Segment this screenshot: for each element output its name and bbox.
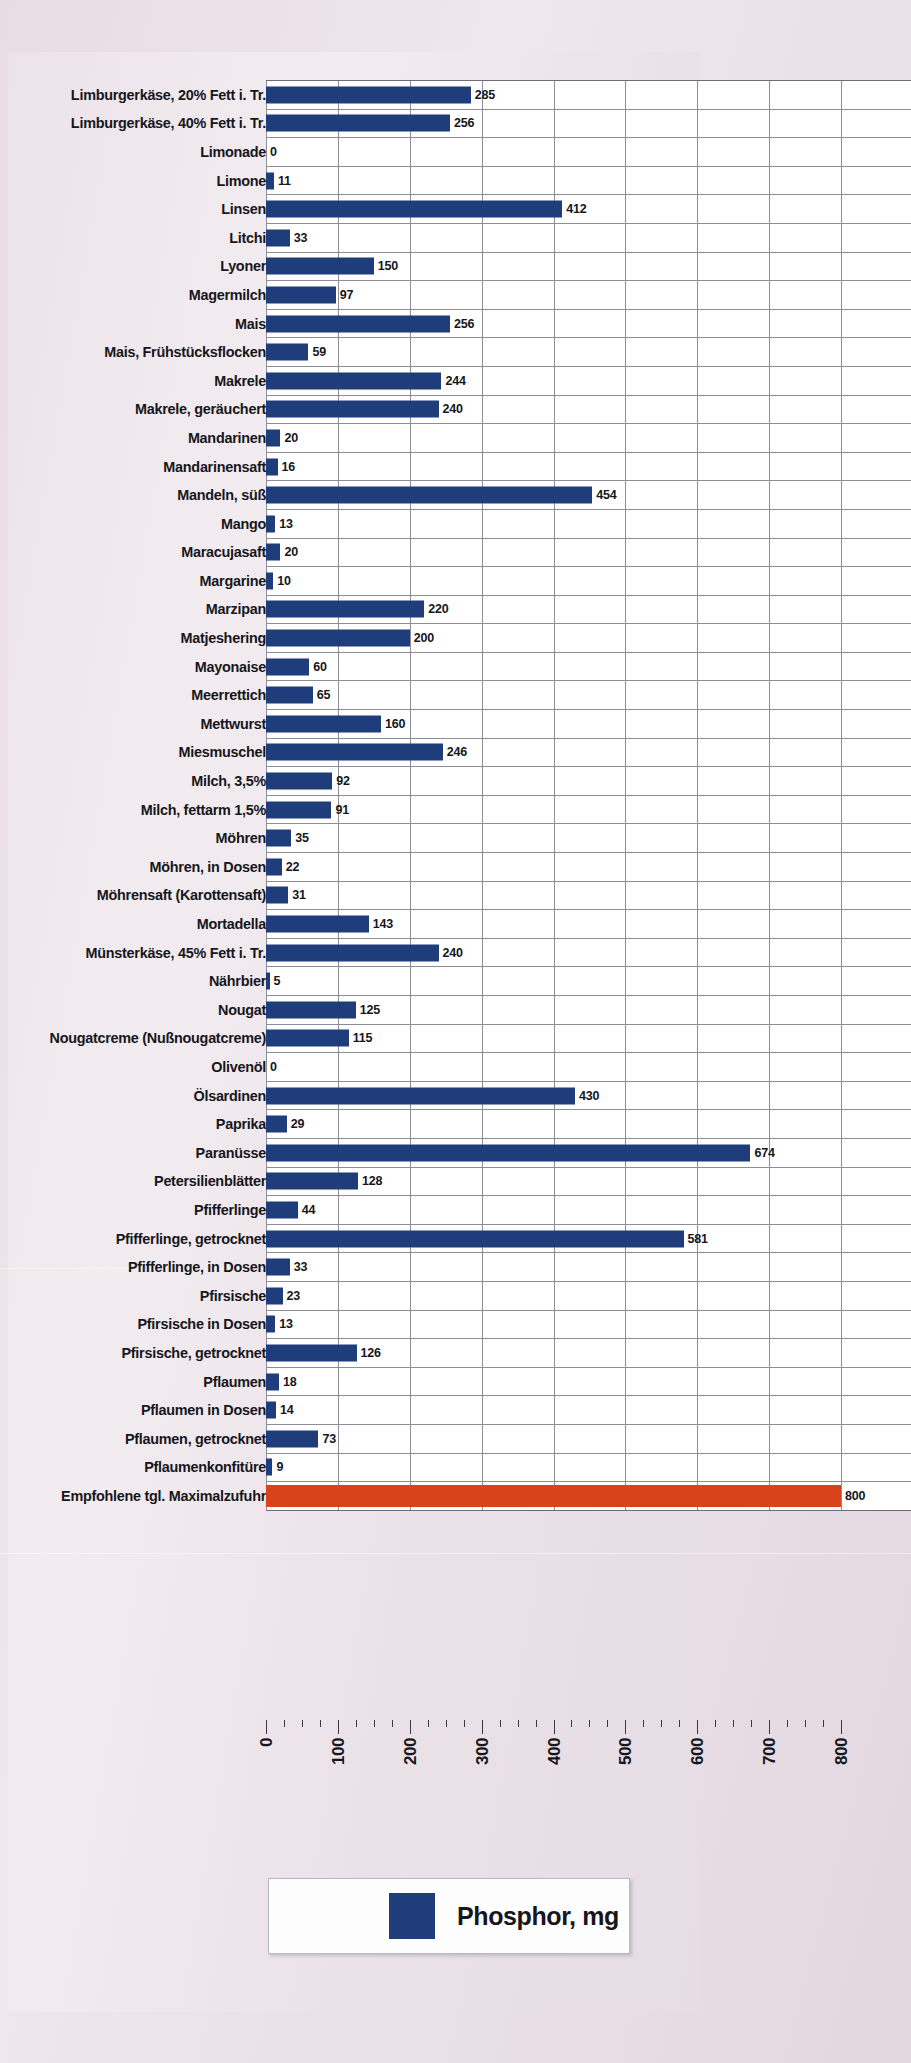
bar-value-label: 143 xyxy=(369,917,393,931)
value-bar xyxy=(266,773,332,790)
plot-cell: 454 xyxy=(266,481,911,510)
bar-value-label: 240 xyxy=(439,402,463,416)
minor-tick xyxy=(356,1720,357,1727)
category-label: Limburgerkäse, 20% Fett i. Tr. xyxy=(19,81,266,110)
plot-cell: 65 xyxy=(266,681,911,710)
plot-cell: 97 xyxy=(266,281,911,310)
plot-cell: 115 xyxy=(266,1024,911,1053)
major-tick xyxy=(697,1720,698,1734)
bar-value-label: 60 xyxy=(309,660,327,674)
bar-value-label: 0 xyxy=(266,145,277,159)
category-label: Möhren xyxy=(19,824,266,853)
category-label: Nougat xyxy=(19,996,266,1025)
value-bar xyxy=(266,601,424,618)
chart-row: Pfirsische23 xyxy=(0,1281,911,1310)
value-bar xyxy=(266,1344,357,1361)
minor-tick xyxy=(607,1720,608,1727)
value-bar xyxy=(266,1087,575,1104)
chart-row: Pflaumen18 xyxy=(0,1367,911,1396)
chart-row: Mango13 xyxy=(0,509,911,538)
category-label: Miesmuschel xyxy=(19,738,266,767)
category-label: Litchi xyxy=(19,223,266,252)
plot-cell: 160 xyxy=(266,710,911,739)
gridlines xyxy=(266,1253,911,1281)
bar-value-label: 23 xyxy=(283,1289,301,1303)
category-label: Empfohlene tgl. Maximalzufuhr xyxy=(19,1482,266,1511)
bar-value-label: 59 xyxy=(308,345,326,359)
minor-tick xyxy=(320,1720,321,1727)
value-bar xyxy=(266,830,291,847)
chart-row: Lyoner150 xyxy=(0,252,911,281)
category-label: Pfirsische xyxy=(19,1281,266,1310)
bar-value-label: 246 xyxy=(443,745,467,759)
gridlines xyxy=(266,653,911,681)
category-label: Möhrensaft (Karottensaft) xyxy=(19,881,266,910)
chart-row: Nährbier5 xyxy=(0,967,911,996)
plot-cell: 143 xyxy=(266,910,911,939)
value-bar xyxy=(266,401,439,418)
category-label: Paprika xyxy=(19,1110,266,1139)
chart-row: Mettwurst160 xyxy=(0,710,911,739)
gridlines xyxy=(266,767,911,795)
x-tick-label: 400 xyxy=(545,1738,565,1765)
x-tick-label: 200 xyxy=(401,1738,421,1765)
bar-value-label: 244 xyxy=(441,374,465,388)
bar-value-label: 412 xyxy=(562,202,586,216)
category-label: Nährbier xyxy=(19,967,266,996)
plot-cell: 91 xyxy=(266,795,911,824)
value-bar xyxy=(266,858,282,875)
plot-cell: 59 xyxy=(266,338,911,367)
gridlines xyxy=(266,967,911,995)
plot-cell: 16 xyxy=(266,452,911,481)
category-label: Mandarinensaft xyxy=(19,452,266,481)
x-axis-tick-labels: 0100200300400500600700800 xyxy=(266,1738,841,1834)
plot-cell: 412 xyxy=(266,195,911,224)
plot-cell: 22 xyxy=(266,853,911,882)
major-tick xyxy=(841,1720,842,1734)
reference-bar xyxy=(266,1485,841,1507)
plot-cell: 240 xyxy=(266,938,911,967)
chart-row: Nougatcreme (Nußnougatcreme)115 xyxy=(0,1024,911,1053)
gridlines xyxy=(266,138,911,166)
plot-cell: 35 xyxy=(266,824,911,853)
bar-value-label: 31 xyxy=(288,888,306,902)
category-label: Mais, Frühstücksflocken xyxy=(19,338,266,367)
minor-tick xyxy=(446,1720,447,1727)
value-bar xyxy=(266,429,280,446)
gridlines xyxy=(266,1110,911,1138)
gridlines xyxy=(266,1196,911,1224)
plot-cell: 44 xyxy=(266,1196,911,1225)
bar-value-label: 5 xyxy=(270,974,281,988)
chart-row: Paprika29 xyxy=(0,1110,911,1139)
x-axis: 0100200300400500600700800 xyxy=(266,1720,911,1850)
category-label: Makrele, geräuchert xyxy=(19,395,266,424)
bar-value-label: 126 xyxy=(357,1346,381,1360)
gridlines xyxy=(266,539,911,567)
bar-value-label: 65 xyxy=(313,688,331,702)
category-label: Lyoner xyxy=(19,252,266,281)
value-bar xyxy=(266,572,273,589)
major-tick xyxy=(554,1720,555,1734)
chart-row: Magermilch97 xyxy=(0,281,911,310)
chart-row: Litchi33 xyxy=(0,223,911,252)
chart-row: Limburgerkäse, 20% Fett i. Tr.285 xyxy=(0,81,911,110)
value-bar xyxy=(266,86,471,103)
minor-tick xyxy=(715,1720,716,1727)
gridlines xyxy=(266,167,911,195)
category-label: Marzipan xyxy=(19,595,266,624)
value-bar xyxy=(266,1402,276,1419)
bar-value-label: 33 xyxy=(290,1260,308,1274)
chart-row: Mandarinen20 xyxy=(0,424,911,453)
value-bar xyxy=(266,1201,298,1218)
bar-value-label: 16 xyxy=(278,460,296,474)
category-label: Maracujasaft xyxy=(19,538,266,567)
category-label: Limone xyxy=(19,166,266,195)
chart-row: Milch, fettarm 1,5%91 xyxy=(0,795,911,824)
plot-cell: 256 xyxy=(266,109,911,138)
minor-tick xyxy=(643,1720,644,1727)
plot-cell: 150 xyxy=(266,252,911,281)
category-label: Pfirsische, getrocknet xyxy=(19,1339,266,1368)
major-tick xyxy=(338,1720,339,1734)
major-tick xyxy=(625,1720,626,1734)
bar-value-label: 256 xyxy=(450,317,474,331)
